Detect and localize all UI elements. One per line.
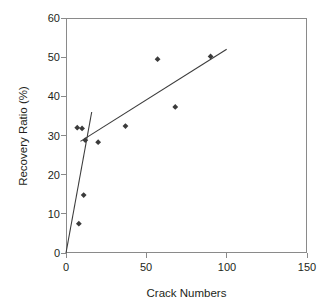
y-tick-label-30: 30 xyxy=(26,131,60,142)
x-tick-label-0: 0 xyxy=(46,262,86,273)
y-axis-title: Recovery Ratio (%) xyxy=(17,51,29,221)
plot-area-frame xyxy=(66,18,307,253)
x-axis-title: Crack Numbers xyxy=(66,287,307,299)
y-tick-label-10: 10 xyxy=(26,209,60,220)
y-tick-label-40: 40 xyxy=(26,91,60,102)
x-tick-label-150: 150 xyxy=(287,262,325,273)
y-tick-label-60: 60 xyxy=(26,13,60,24)
x-tick-label-100: 100 xyxy=(207,262,247,273)
y-tick-label-20: 20 xyxy=(26,170,60,181)
y-tick-label-0: 0 xyxy=(26,248,60,259)
x-tick-label-50: 50 xyxy=(126,262,166,273)
scatter-chart: 60 50 40 30 20 10 0 0 50 100 150 Crack N… xyxy=(0,0,325,308)
y-tick-label-50: 50 xyxy=(26,52,60,63)
